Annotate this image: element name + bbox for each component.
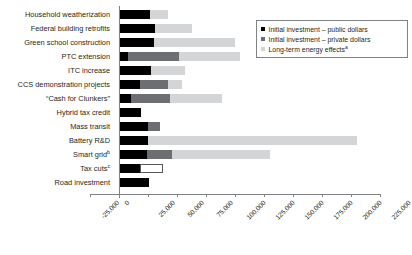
- bar-segment-longterm: [154, 38, 235, 47]
- bar-segment-longterm: [155, 24, 192, 33]
- bar-segment-private: [140, 80, 168, 89]
- bar-segment-public: [119, 178, 149, 187]
- bar-segment-private: [147, 150, 173, 159]
- bar-segment-public: [119, 52, 128, 61]
- zero-baseline: [119, 6, 120, 198]
- x-tick: [177, 194, 178, 197]
- x-tick: [148, 194, 149, 197]
- legend-item: Initial investment – public dollars: [261, 24, 402, 34]
- bar-segment-public: [119, 24, 155, 33]
- x-tick: [351, 194, 352, 197]
- bar-row: [0, 106, 412, 120]
- x-tick: [119, 194, 120, 197]
- x-tick-label: 225,000: [390, 199, 412, 221]
- energy-investment-bar-chart: Household weatherizationFederal building…: [0, 0, 412, 255]
- bar-segment-public: [119, 164, 140, 173]
- bar-segment-public: [119, 66, 151, 75]
- bar-segment-longterm: [151, 66, 185, 75]
- x-tick: [235, 194, 236, 197]
- bar-row: [0, 148, 412, 162]
- x-tick-label: 0: [123, 199, 131, 207]
- bar-segment-longterm: [168, 80, 182, 89]
- x-tick-label: -25,000: [100, 199, 121, 220]
- legend-swatch-longterm-icon: [261, 47, 265, 51]
- bar-segment-public: [119, 94, 131, 103]
- x-tick: [264, 194, 265, 197]
- legend-label: Initial investment – private dollars: [269, 36, 371, 43]
- plot-area: Household weatherizationFederal building…: [0, 0, 412, 255]
- bar-segment-private: [131, 94, 170, 103]
- bar-row: [0, 78, 412, 92]
- chart-legend: Initial investment – public dollarsIniti…: [256, 20, 408, 58]
- bar-row: [0, 92, 412, 106]
- legend-item: Initial investment – private dollars: [261, 34, 402, 44]
- legend-swatch-private-icon: [261, 37, 265, 41]
- bar-segment-public: [119, 122, 148, 131]
- x-tick: [293, 194, 294, 197]
- bar-row: [0, 134, 412, 148]
- legend-label: Initial investment – public dollars: [269, 26, 368, 33]
- x-tick-label: 100,000: [245, 199, 267, 221]
- legend-item: Long-term energy effectsa: [261, 44, 402, 54]
- bar-segment-public: [119, 150, 147, 159]
- bar-segment-public: [119, 80, 140, 89]
- bar-row: [0, 162, 412, 176]
- x-tick: [380, 194, 381, 197]
- bar-segment-longterm: [148, 136, 357, 145]
- x-tick-label: 200,000: [361, 199, 383, 221]
- bar-segment-private: [148, 122, 160, 131]
- x-tick-label: 125,000: [274, 199, 296, 221]
- x-tick-label: 175,000: [332, 199, 354, 221]
- bar-row: [0, 176, 412, 190]
- legend-label: Long-term energy effectsa: [269, 46, 348, 53]
- bar-row: [0, 64, 412, 78]
- bar-row: [0, 120, 412, 134]
- bar-segment-longterm: [170, 94, 222, 103]
- x-tick-label: 150,000: [303, 199, 325, 221]
- bar-segment-public: [119, 108, 141, 117]
- x-tick: [90, 194, 91, 197]
- x-tick: [206, 194, 207, 197]
- bar-segment-public: [119, 136, 148, 145]
- bar-segment-public: [119, 38, 154, 47]
- bar-segment-longterm: [150, 10, 167, 19]
- x-tick-label: 25,000: [157, 199, 176, 218]
- bar-segment-private: [128, 52, 179, 61]
- bar-segment-outline: [140, 164, 163, 173]
- x-tick: [322, 194, 323, 197]
- bar-segment-public: [119, 10, 150, 19]
- x-tick-label: 50,000: [186, 199, 205, 218]
- bar-segment-longterm: [179, 52, 239, 61]
- x-tick-label: 75,000: [215, 199, 234, 218]
- legend-swatch-public-icon: [261, 27, 265, 31]
- bar-segment-longterm: [172, 150, 269, 159]
